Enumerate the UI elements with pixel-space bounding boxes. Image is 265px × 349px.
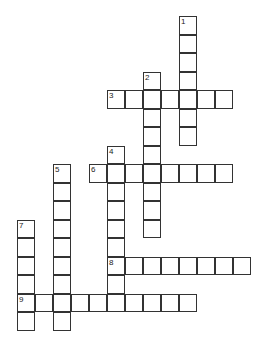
clue-number: 4: [109, 147, 113, 156]
crossword-cell[interactable]: [179, 90, 197, 109]
crossword-cell[interactable]: [179, 164, 197, 183]
crossword-cell[interactable]: [161, 164, 179, 183]
crossword-cell[interactable]: 1: [179, 16, 197, 35]
crossword-cell[interactable]: [125, 90, 143, 109]
crossword-cell[interactable]: [17, 238, 35, 257]
crossword-cell[interactable]: [143, 90, 161, 109]
crossword-cell[interactable]: 3: [107, 90, 125, 109]
crossword-cell[interactable]: [143, 257, 161, 276]
crossword-cell[interactable]: [143, 183, 161, 202]
crossword-cell[interactable]: 9: [17, 294, 35, 313]
crossword-cell[interactable]: [53, 201, 71, 220]
crossword-cell[interactable]: [197, 164, 215, 183]
crossword-cell[interactable]: [161, 294, 179, 313]
crossword-cell[interactable]: [161, 90, 179, 109]
clue-number: 5: [55, 165, 59, 174]
crossword-cell[interactable]: [179, 109, 197, 128]
crossword-cell[interactable]: [89, 294, 107, 313]
crossword-cell[interactable]: [53, 275, 71, 294]
crossword-cell[interactable]: [125, 164, 143, 183]
clue-number: 9: [19, 295, 23, 304]
clue-number: 8: [109, 258, 113, 267]
clue-number: 7: [19, 221, 23, 230]
crossword-cell[interactable]: [107, 275, 125, 294]
crossword-cell[interactable]: [161, 257, 179, 276]
crossword-cell[interactable]: [143, 146, 161, 165]
clue-number: 3: [109, 91, 113, 100]
crossword-cell[interactable]: 5: [53, 164, 71, 183]
crossword-cell[interactable]: [107, 164, 125, 183]
crossword-cell[interactable]: [215, 164, 233, 183]
crossword-cell[interactable]: [107, 294, 125, 313]
crossword-cell[interactable]: [53, 294, 71, 313]
crossword-cell[interactable]: [233, 257, 251, 276]
crossword-cell[interactable]: [143, 294, 161, 313]
crossword-cell[interactable]: [179, 257, 197, 276]
crossword-cell[interactable]: [143, 127, 161, 146]
crossword-cell[interactable]: [125, 294, 143, 313]
crossword-cell[interactable]: [179, 53, 197, 72]
crossword-cell[interactable]: [143, 220, 161, 239]
crossword-cell[interactable]: [215, 90, 233, 109]
crossword-cell[interactable]: [125, 257, 143, 276]
crossword-cell[interactable]: [17, 275, 35, 294]
crossword-cell[interactable]: [53, 220, 71, 239]
crossword-cell[interactable]: [179, 294, 197, 313]
clue-number: 2: [145, 73, 149, 82]
crossword-cell[interactable]: 6: [89, 164, 107, 183]
crossword-grid: 123485679: [0, 0, 265, 349]
crossword-cell[interactable]: [179, 35, 197, 54]
crossword-cell[interactable]: [53, 257, 71, 276]
crossword-cell[interactable]: [179, 127, 197, 146]
crossword-cell[interactable]: 4: [107, 146, 125, 165]
crossword-cell[interactable]: [107, 201, 125, 220]
crossword-cell[interactable]: [53, 312, 71, 331]
crossword-cell[interactable]: 7: [17, 220, 35, 239]
crossword-cell[interactable]: [71, 294, 89, 313]
crossword-cell[interactable]: [179, 72, 197, 91]
crossword-cell[interactable]: [17, 257, 35, 276]
crossword-cell[interactable]: [53, 183, 71, 202]
crossword-cell[interactable]: 8: [107, 257, 125, 276]
crossword-cell[interactable]: [143, 164, 161, 183]
crossword-cell[interactable]: 2: [143, 72, 161, 91]
crossword-cell[interactable]: [215, 257, 233, 276]
crossword-cell[interactable]: [197, 257, 215, 276]
crossword-cell[interactable]: [107, 238, 125, 257]
crossword-cell[interactable]: [197, 90, 215, 109]
crossword-cell[interactable]: [35, 294, 53, 313]
clue-number: 6: [91, 165, 95, 174]
crossword-cell[interactable]: [143, 109, 161, 128]
crossword-cell[interactable]: [143, 201, 161, 220]
crossword-cell[interactable]: [107, 220, 125, 239]
crossword-cell[interactable]: [17, 312, 35, 331]
clue-number: 1: [181, 17, 185, 26]
crossword-cell[interactable]: [53, 238, 71, 257]
crossword-cell[interactable]: [107, 183, 125, 202]
